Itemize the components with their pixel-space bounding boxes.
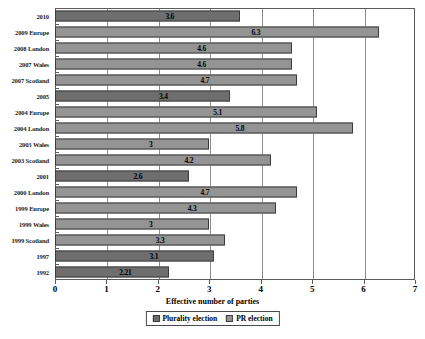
y-axis-label: 2000 London	[0, 184, 52, 200]
y-axis-label: 2010	[0, 8, 52, 24]
bar-pr	[55, 187, 297, 198]
bar-pr	[55, 139, 209, 150]
legend-label-pr: PR election	[236, 314, 272, 323]
chart-legend: Plurality election PR election	[145, 311, 279, 326]
bar-rows: 3.66.34.64.64.73.45.15.834.22.64.74.333.…	[55, 8, 415, 280]
y-axis-label: 2004 Europe	[0, 104, 52, 120]
legend-label-plurality: Plurality election	[162, 314, 217, 323]
bar-row: 3.3	[55, 232, 415, 248]
bar-row: 4.3	[55, 200, 415, 216]
y-axis-label: 2003 Scotland	[0, 152, 52, 168]
bar-row: 3	[55, 216, 415, 232]
bar-value-label: 6.3	[251, 28, 260, 37]
bar-value-label: 3.1	[149, 252, 158, 261]
bar-plurality	[55, 11, 240, 22]
bar-value-label: 3.4	[159, 92, 168, 101]
bar-row: 5.1	[55, 104, 415, 120]
bar-pr	[55, 27, 379, 38]
bar-value-label: 5.1	[213, 108, 222, 117]
bar-value-label: 4.6	[197, 60, 206, 69]
y-axis-label: 1999 Scotland	[0, 232, 52, 248]
bar-row: 4.2	[55, 152, 415, 168]
legend-item-pr: PR election	[226, 314, 272, 323]
bar-row: 4.7	[55, 72, 415, 88]
bar-pr	[55, 155, 271, 166]
legend-item-plurality: Plurality election	[152, 314, 217, 323]
y-axis-label: 2004 London	[0, 120, 52, 136]
bar-row: 3.4	[55, 88, 415, 104]
bar-value-label: 2.6	[134, 172, 143, 181]
y-axis-label: 2007 Wales	[0, 56, 52, 72]
bar-value-label: 4.6	[197, 44, 206, 53]
legend-swatch-pr-icon	[226, 315, 233, 322]
bar-pr	[55, 235, 225, 246]
bar-row: 4.6	[55, 40, 415, 56]
y-axis-label: 2007 Scotland	[0, 72, 52, 88]
bar-value-label: 3.3	[156, 236, 165, 245]
x-axis-tick-label: 0	[53, 284, 58, 294]
x-axis-tick-label: 2	[156, 284, 161, 294]
y-axis-label: 2001	[0, 168, 52, 184]
y-axis-label: 2003 Wales	[0, 136, 52, 152]
bar-pr	[55, 123, 353, 134]
bar-value-label: 2.21	[119, 268, 131, 277]
bar-value-label: 3	[149, 220, 153, 229]
bar-row: 3	[55, 136, 415, 152]
y-axis-label: 1999 Wales	[0, 216, 52, 232]
bar-value-label: 4.2	[185, 156, 194, 165]
bar-value-label: 4.7	[200, 76, 209, 85]
bar-plurality	[55, 251, 214, 262]
bar-pr	[55, 59, 292, 70]
bar-row: 4.7	[55, 184, 415, 200]
bar-plurality	[55, 171, 189, 182]
x-axis-tick-label: 6	[361, 284, 366, 294]
bar-plurality	[55, 91, 230, 102]
bar-pr	[55, 203, 276, 214]
bar-row: 2.21	[55, 264, 415, 280]
legend-swatch-plurality-icon	[152, 315, 159, 322]
y-axis-label: 1999 Europe	[0, 200, 52, 216]
bar-row: 2.6	[55, 168, 415, 184]
bar-row: 4.6	[55, 56, 415, 72]
bar-row: 3.1	[55, 248, 415, 264]
bar-row: 5.8	[55, 120, 415, 136]
bar-row: 3.6	[55, 8, 415, 24]
y-axis-label: 2009 Europe	[0, 24, 52, 40]
bar-row: 6.3	[55, 24, 415, 40]
x-axis-tick-label: 1	[104, 284, 109, 294]
bar-chart: 20102009 Europe2008 London2007 Wales2007…	[0, 0, 425, 339]
x-axis-title: Effective number of parties	[0, 297, 425, 306]
x-axis-tick-label: 5	[310, 284, 315, 294]
bar-value-label: 5.8	[236, 124, 245, 133]
bar-pr	[55, 107, 317, 118]
y-axis-label: 1992	[0, 264, 52, 280]
bar-pr	[55, 75, 297, 86]
bar-plurality	[55, 267, 169, 278]
bar-value-label: 3.6	[165, 12, 174, 21]
y-axis-label: 1997	[0, 248, 52, 264]
bar-pr	[55, 43, 292, 54]
bar-value-label: 4.3	[188, 204, 197, 213]
x-axis-tick-label: 4	[258, 284, 263, 294]
x-axis-tick-label: 7	[413, 284, 418, 294]
x-axis-tick-labels: 01234567	[0, 284, 425, 298]
y-axis-label: 2008 London	[0, 40, 52, 56]
bar-value-label: 4.7	[200, 188, 209, 197]
bar-value-label: 3	[149, 140, 153, 149]
y-axis-labels: 20102009 Europe2008 London2007 Wales2007…	[0, 8, 52, 280]
y-axis-label: 2005	[0, 88, 52, 104]
x-axis-tick-label: 3	[207, 284, 212, 294]
bar-pr	[55, 219, 209, 230]
